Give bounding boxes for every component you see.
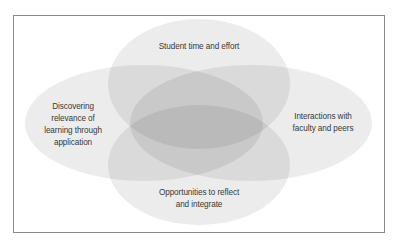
label-student-time: Student time and effort bbox=[148, 40, 249, 52]
label-interactions: Interactions with faculty and peers bbox=[286, 110, 360, 134]
label-opportunities: Opportunities to reflect and integrate bbox=[140, 186, 259, 210]
label-discovering-relevance: Discovering relevance of learning throug… bbox=[36, 100, 110, 148]
